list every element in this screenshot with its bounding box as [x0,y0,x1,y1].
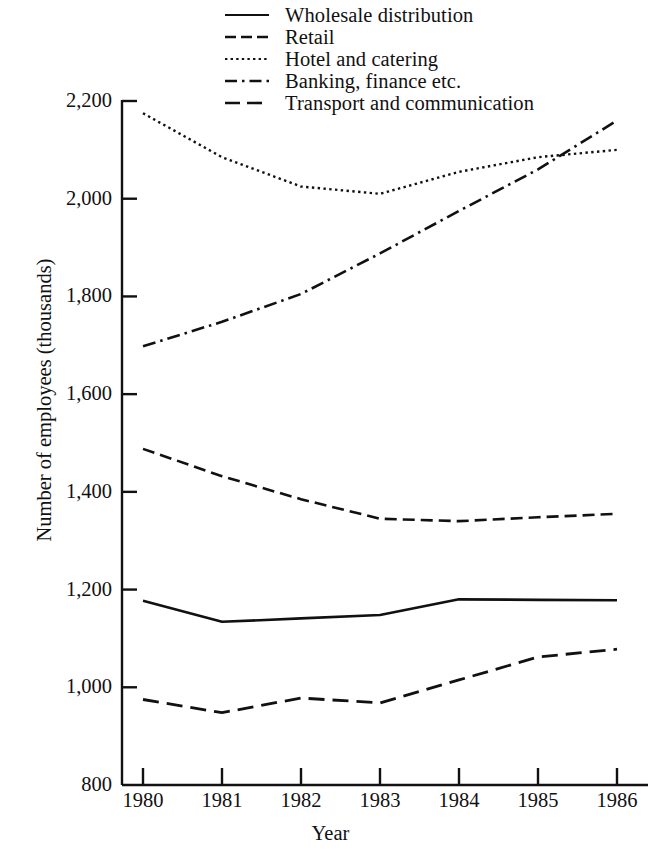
line-chart: Wholesale distribution Retail Hotel and … [0,0,661,863]
x-tick-label: 1985 [498,790,578,810]
plot-area [0,0,661,863]
y-axis-title: Number of employees (thousands) [33,262,56,542]
y-tick-label: 1,800 [12,285,112,305]
y-tick-label: 2,000 [12,188,112,208]
series-line-wholesale-distribution [143,599,617,621]
y-tick-label: 1,200 [12,579,112,599]
series-line-hotel-and-catering [143,113,617,194]
x-tick-label: 1984 [419,790,499,810]
x-axis-title: Year [0,822,661,845]
y-tick-label: 800 [12,774,112,794]
series-line-banking-finance-etc [143,121,617,347]
x-tick-label: 1986 [577,790,657,810]
y-tick-label: 1,000 [12,676,112,696]
y-tick-label: 1,400 [12,481,112,501]
x-tick-label: 1983 [340,790,420,810]
y-tick-label: 1,600 [12,383,112,403]
x-tick-label: 1982 [261,790,341,810]
series-line-transport-and-communication [143,649,617,713]
x-tick-label: 1980 [103,790,183,810]
series-line-retail [143,449,617,521]
y-tick-label: 2,200 [12,90,112,110]
x-tick-label: 1981 [182,790,262,810]
